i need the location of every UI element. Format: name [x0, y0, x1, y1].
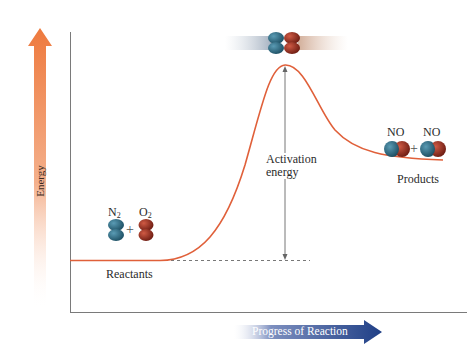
o2-molecule-icon	[139, 219, 154, 241]
x-axis-label: Progress of Reaction	[252, 325, 348, 337]
y-axis-label: Energy	[34, 161, 46, 201]
transition-state-molecule-icon	[225, 32, 348, 54]
o2-subscript: 2	[148, 211, 152, 220]
no-label-1: NO	[387, 126, 404, 139]
n2-label: N2	[108, 206, 121, 222]
o2-label: O2	[139, 206, 152, 222]
n2-molecule-icon	[108, 219, 124, 241]
no-molecule-icon-2	[420, 141, 446, 157]
no-molecule-icon-1	[384, 141, 410, 157]
n2-subscript: 2	[117, 211, 121, 220]
activation-energy-label: Activation energy	[265, 153, 318, 179]
reactants-label: Reactants	[106, 268, 153, 281]
no-label-2: NO	[423, 126, 440, 139]
reactants-plus-sign: +	[126, 223, 134, 236]
x-axis-arrow: Progress of Reaction	[234, 320, 382, 344]
o2-formula: O	[139, 205, 148, 219]
products-label: Products	[397, 173, 439, 186]
activation-energy-line2: energy	[266, 166, 317, 179]
products-plus-sign: +	[410, 142, 418, 155]
n2-formula: N	[108, 205, 117, 219]
